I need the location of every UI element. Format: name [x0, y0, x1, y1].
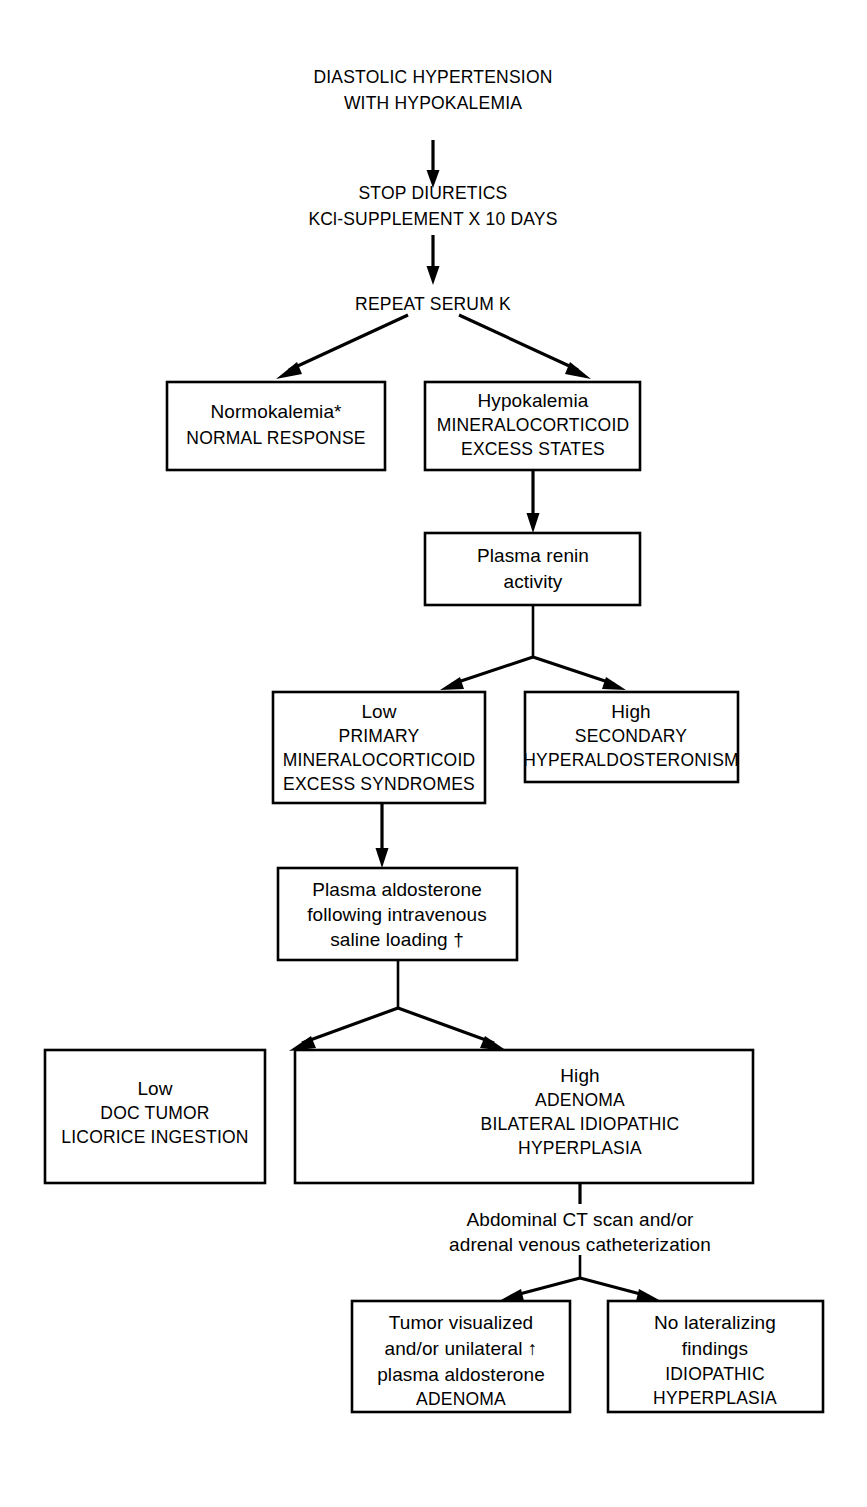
n10-line-1: DOC TUMOR [100, 1103, 209, 1123]
edge-n12-split [499, 1255, 661, 1301]
n8-line-0: High [611, 701, 650, 722]
edge-n3-n4 [276, 315, 408, 379]
n13-line-1: and/or unilateral ↑ [385, 1338, 538, 1359]
edge-n1-n2 [427, 140, 440, 188]
n5-line-0: Hypokalemia [478, 390, 589, 411]
n11-line-0: High [560, 1065, 599, 1086]
n6-line-1: activity [504, 571, 563, 592]
n11-line-1: ADENOMA [535, 1090, 625, 1110]
n9-line-2: saline loading † [330, 929, 464, 950]
n12-line-0: Abdominal CT scan and/or [466, 1209, 694, 1230]
n9-line-1: following intravenous [307, 904, 487, 925]
n14-line-0: No lateralizing [654, 1312, 776, 1333]
n10-line-2: LICORICE INGESTION [61, 1127, 248, 1147]
n13-line-2: plasma aldosterone [377, 1364, 545, 1385]
n7-line-1: PRIMARY [339, 726, 420, 746]
node-box-plasma-renin-activity [425, 533, 640, 605]
edge-n2-n3 [427, 235, 440, 285]
n5-line-1: MINERALOCORTICOID [437, 415, 630, 435]
node-box-normokalemia [167, 382, 385, 470]
n13-line-3: ADENOMA [416, 1389, 506, 1409]
node-text-abdominal-ct-scan: Abdominal CT scan and/or adrenal venous … [449, 1209, 711, 1255]
n8-line-1: SECONDARY [575, 726, 687, 746]
node-text-diastolic-hypertension: DIASTOLIC HYPERTENSION WITH HYPOKALEMIA [313, 67, 552, 113]
n2-line-0: STOP DIURETICS [359, 183, 508, 203]
diagnostic-flowchart: DIASTOLIC HYPERTENSION WITH HYPOKALEMIA … [0, 0, 867, 1507]
n7-line-0: Low [361, 701, 396, 722]
edge-n7-n9 [376, 803, 389, 868]
n4-line-1: NORMAL RESPONSE [186, 428, 365, 448]
n1-line-1: WITH HYPOKALEMIA [344, 93, 522, 113]
n4-line-0: Normokalemia* [210, 401, 342, 422]
n13-line-0: Tumor visualized [389, 1312, 534, 1333]
n3-line-0: REPEAT SERUM K [355, 294, 511, 314]
node-text-stop-diuretics: STOP DIURETICS KCl-SUPPLEMENT X 10 DAYS [308, 183, 557, 229]
node-text-repeat-serum-k: REPEAT SERUM K [355, 294, 511, 314]
n11-line-3: HYPERPLASIA [518, 1138, 642, 1158]
edge-n6-split [440, 605, 626, 690]
n12-line-1: adrenal venous catheterization [449, 1234, 711, 1255]
flowchart-canvas: DIASTOLIC HYPERTENSION WITH HYPOKALEMIA … [0, 0, 867, 1507]
n14-line-2: IDIOPATHIC [665, 1364, 765, 1384]
n11-line-2: BILATERAL IDIOPATHIC [481, 1114, 680, 1134]
n10-line-0: Low [137, 1078, 172, 1099]
n9-line-0: Plasma aldosterone [312, 879, 482, 900]
edge-n5-n6 [527, 470, 540, 533]
n7-line-3: EXCESS SYNDROMES [283, 774, 475, 794]
n8-line-2: HYPERALDOSTERONISM [523, 750, 739, 770]
n7-line-2: MINERALOCORTICOID [283, 750, 476, 770]
n5-line-2: EXCESS STATES [461, 439, 605, 459]
n14-line-1: findings [682, 1338, 748, 1359]
n14-line-3: HYPERPLASIA [653, 1388, 777, 1408]
edge-n3-n5 [459, 315, 591, 379]
node-text-plasma-aldosterone: Plasma aldosterone following intravenous… [307, 879, 487, 950]
n6-line-0: Plasma renin [477, 545, 589, 566]
edge-n9-split [289, 960, 507, 1051]
n2-line-1: KCl-SUPPLEMENT X 10 DAYS [308, 209, 557, 229]
n1-line-0: DIASTOLIC HYPERTENSION [313, 67, 552, 87]
